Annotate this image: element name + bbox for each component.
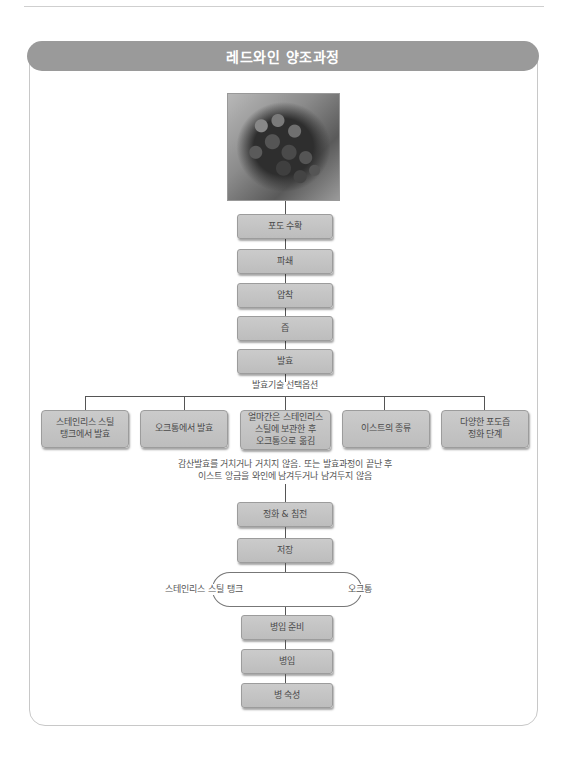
step-label: 포도 수확 [268, 221, 303, 232]
step-label: 압착 [277, 290, 293, 301]
header-bar: 레드와인 양조과정 [27, 41, 539, 71]
connector-line [285, 274, 286, 283]
option-stainless-then-oak: 얼마간은 스테인리스 스틸에 보관한 후 오크통으로 옮김 [240, 410, 331, 450]
option-clarification-steps: 다양한 포도즙 정화 단계 [441, 410, 529, 448]
fermentation-note: 감산발효를 거치거나 거치지 않음. 또는 발효과정이 끝난 후 이스트 앙금을… [150, 459, 420, 482]
step-crushing: 파쇄 [237, 249, 333, 274]
step-pressing: 압착 [237, 283, 333, 308]
grape-cluster-photo-icon [227, 93, 340, 201]
step-bottling: 병입 [241, 649, 333, 674]
storage-stainless-label: 스테인리스 스틸 탱크 [165, 584, 265, 596]
connector-line [285, 674, 286, 683]
step-harvest: 포도 수확 [237, 214, 333, 239]
top-rule [24, 6, 544, 7]
connector-line [285, 341, 286, 349]
diagram-title: 레드와인 양조과정 [226, 46, 339, 66]
step-storage: 저장 [237, 538, 333, 563]
step-fermentation: 발효 [237, 349, 333, 374]
step-label: 병입 [279, 656, 295, 667]
step-label: 즙 [281, 323, 289, 334]
connector-line [184, 396, 185, 410]
connector-line [285, 527, 286, 538]
connector-line [285, 396, 286, 410]
step-label: 파쇄 [277, 256, 293, 267]
connector-line [285, 201, 286, 214]
connector-line [285, 308, 286, 316]
step-label: 저장 [277, 545, 293, 556]
connector-line [285, 484, 286, 502]
option-stainless-fermentation: 스테인리스 스틸 탱크에서 발효 [41, 410, 129, 448]
connector-line [285, 607, 286, 615]
step-bottling-prep: 병입 준비 [241, 615, 333, 640]
option-oak-fermentation: 오크통에서 발효 [140, 410, 228, 448]
connector-line [484, 396, 485, 410]
step-clarification-settling: 정화 & 침전 [237, 502, 333, 527]
fermentation-options-title: 발효기술 선택옵션 [210, 380, 360, 392]
step-label: 병입 준비 [270, 622, 305, 633]
option-yeast-type: 이스트의 종류 [342, 410, 430, 448]
step-label: 정화 & 침전 [263, 509, 308, 520]
connector-line [85, 396, 86, 410]
connector-line [285, 239, 286, 249]
step-label: 병 숙성 [274, 690, 301, 701]
step-juice: 즙 [237, 316, 333, 341]
connector-line [285, 640, 286, 649]
step-bottle-aging: 병 숙성 [241, 683, 333, 708]
storage-oak-label: 오크통 [348, 584, 388, 596]
connector-line [384, 396, 385, 410]
step-label: 발효 [277, 356, 293, 367]
